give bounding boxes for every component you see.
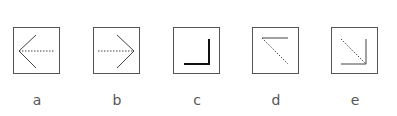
option-b-figure xyxy=(93,27,141,75)
option-d-figure xyxy=(252,27,300,75)
corner-bottom-right-icon xyxy=(173,27,221,75)
arrow-down-right-dashed-icon xyxy=(331,27,379,75)
arrow-up-left-dashed-icon xyxy=(252,27,300,75)
option-b-label: b xyxy=(93,91,141,109)
option-d-label: d xyxy=(252,91,300,109)
option-c-label: c xyxy=(173,91,221,109)
option-a-label: a xyxy=(13,91,61,109)
arrow-right-dashed-shaft-icon xyxy=(93,27,141,75)
option-a-figure xyxy=(13,27,61,75)
option-e-label: e xyxy=(331,91,379,109)
arrow-left-dashed-shaft-icon xyxy=(13,27,61,75)
option-e-figure xyxy=(331,27,379,75)
option-c-figure xyxy=(173,27,221,75)
